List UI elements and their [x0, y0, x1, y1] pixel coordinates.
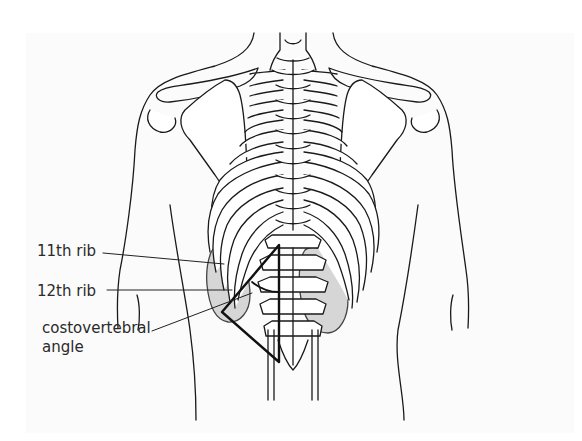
torso-illustration — [0, 0, 582, 441]
label-12th-rib: 12th rib — [37, 282, 96, 301]
label-cva-line2: angle — [42, 338, 151, 357]
label-11th-rib: 11th rib — [37, 242, 96, 261]
anatomy-figure: 11th rib 12th rib costovertebral angle — [0, 0, 582, 441]
label-costovertebral-angle: costovertebral angle — [42, 319, 151, 357]
label-cva-line1: costovertebral — [42, 319, 151, 338]
